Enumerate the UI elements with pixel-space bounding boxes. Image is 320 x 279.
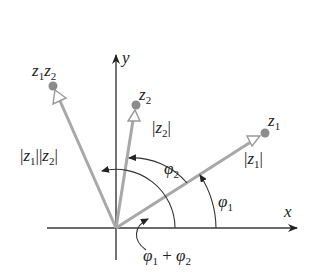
z1-label: z1 (268, 112, 280, 132)
arrowhead-icon (128, 110, 140, 121)
z1z2-point (49, 82, 58, 91)
vector-z2 (116, 101, 141, 229)
phi1-label: φ1 (218, 193, 233, 213)
y-axis-label: y (122, 49, 130, 66)
vector-z1 (116, 129, 270, 229)
phi1-plus-phi2-label: φ1 + φ2 (143, 247, 191, 267)
z1z2-label: z1z2 (32, 62, 56, 82)
z1z2-modulus-label: |z1||z2| (20, 147, 58, 167)
z2-modulus-label: |z2| (152, 119, 171, 139)
vector-z1z2 (49, 82, 117, 229)
x-axis-label: x (284, 203, 292, 220)
phi2-label: φ2 (164, 160, 179, 180)
z1-modulus-label: |z1| (244, 150, 263, 170)
diagram-graphics (0, 0, 320, 279)
phi1-arc (200, 175, 216, 228)
complex-multiplication-diagram: y x z1 z2 z1z2 |z1| |z2| |z1||z2| φ1 φ2 … (0, 0, 320, 279)
z2-label: z2 (139, 86, 151, 106)
